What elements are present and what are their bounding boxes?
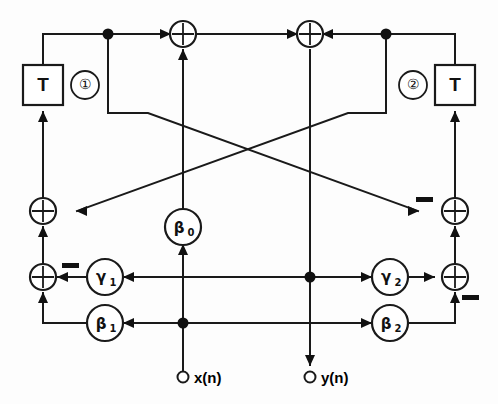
coef-beta1-symbol: β xyxy=(96,315,107,333)
input-terminal-circle xyxy=(178,372,189,383)
output-terminal-label: y(n) xyxy=(321,369,349,386)
cross-coupling-wires xyxy=(77,34,418,211)
adder-right-upper[interactable] xyxy=(442,198,468,224)
port-input[interactable]: x(n) xyxy=(178,369,222,386)
flow-graph-canvas: T ① T ② xyxy=(0,0,498,404)
coef-beta2[interactable]: β 2 xyxy=(372,305,408,341)
adder-left-upper[interactable] xyxy=(30,198,56,224)
adder-top-left[interactable] xyxy=(170,21,196,47)
coef-gamma1-symbol: γ xyxy=(96,268,106,286)
minus-sign-right-lower xyxy=(462,295,479,300)
delay-2-label: T xyxy=(449,74,461,95)
coef-beta2-subscript: 2 xyxy=(395,323,402,334)
junction-dot-input xyxy=(178,318,189,329)
coef-beta1-subscript: 1 xyxy=(110,323,117,334)
delay-1-label: T xyxy=(37,74,49,95)
minus-sign-left-lower xyxy=(62,263,79,268)
input-terminal-label: x(n) xyxy=(194,369,222,386)
adder-right-lower[interactable] xyxy=(442,264,468,290)
minus-sign-right-upper xyxy=(416,197,433,202)
coef-gamma2-subscript: 2 xyxy=(395,277,402,288)
coef-beta0-subscript: 0 xyxy=(188,227,195,238)
coef-beta0-symbol: β xyxy=(174,219,185,237)
adder-top-right[interactable] xyxy=(297,21,323,47)
junction-dot-top-left xyxy=(103,29,114,40)
coef-beta1[interactable]: β 1 xyxy=(87,305,123,341)
signal-flow-diagram: T ① T ② xyxy=(0,0,498,404)
port-output[interactable]: y(n) xyxy=(305,369,349,386)
delay-element-1[interactable]: T xyxy=(23,65,63,197)
delay-2-index-label: ② xyxy=(407,77,420,92)
delay-1-index: ① xyxy=(71,71,99,99)
output-terminal-circle xyxy=(305,372,316,383)
coef-gamma1-subscript: 1 xyxy=(110,277,117,288)
wire-state2-to-left-upper-adder xyxy=(77,34,386,211)
delay-element-2[interactable]: T xyxy=(435,65,475,197)
top-bus-wires xyxy=(43,34,455,70)
coef-beta2-symbol: β xyxy=(381,315,392,333)
wire-state1-to-right-upper-adder xyxy=(108,34,418,211)
coef-beta0[interactable]: β 0 xyxy=(165,209,201,245)
junction-dot-output xyxy=(305,272,316,283)
delay-1-index-label: ① xyxy=(79,77,92,92)
coef-gamma1[interactable]: γ 1 xyxy=(87,259,123,295)
delay-2-index: ② xyxy=(399,71,427,99)
adder-left-lower[interactable] xyxy=(30,264,56,290)
coef-gamma2[interactable]: γ 2 xyxy=(372,259,408,295)
coef-gamma2-symbol: γ xyxy=(381,268,391,286)
junction-dot-top-right xyxy=(381,29,392,40)
